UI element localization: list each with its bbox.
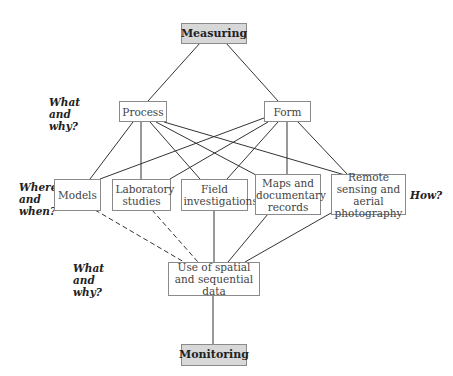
maps-node: Maps and documentary records [255, 174, 321, 215]
edge-form-remote [298, 122, 348, 175]
edge-measuring-process [148, 43, 200, 101]
remote-sensing-label: Remote sensing and aerial photography [333, 171, 405, 219]
laboratory-label: Laboratory studies [116, 183, 168, 207]
use-spatial-data-node: Use of spatial and sequential data [168, 262, 260, 296]
field-node: Field investigations [181, 179, 248, 211]
monitoring-node: Monitoring [181, 344, 247, 366]
question-where-when: Where and when? [19, 181, 53, 217]
edge-form-laboratory [170, 122, 268, 179]
edge-maps-use [228, 214, 268, 262]
edge-process-maps [156, 122, 256, 175]
maps-label: Maps and documentary records [256, 177, 320, 213]
edge-measuring-form [226, 43, 278, 101]
use-spatial-data-label: Use of spatial and sequential data [172, 261, 256, 297]
edge-remote-use [245, 213, 331, 262]
edge-models-use [95, 210, 184, 262]
process-node: Process [119, 101, 167, 122]
field-label: Field investigations [184, 183, 246, 207]
form-node: Form [264, 101, 311, 122]
edge-laboratory-use [152, 210, 198, 262]
laboratory-node: Laboratory studies [112, 179, 171, 211]
measuring-node: Measuring [181, 23, 247, 44]
edge-process-models [90, 122, 133, 179]
remote-sensing-node: Remote sensing and aerial photography [331, 174, 406, 215]
question-how: How? [410, 189, 442, 201]
form-label: Form [273, 106, 301, 118]
models-label: Models [58, 189, 97, 201]
process-label: Process [122, 106, 163, 118]
monitoring-label: Monitoring [179, 349, 249, 361]
question-what-why-top: What and why? [49, 96, 89, 132]
models-node: Models [54, 179, 101, 211]
measuring-label: Measuring [181, 28, 247, 40]
question-what-why-bottom: What and why? [73, 262, 103, 298]
